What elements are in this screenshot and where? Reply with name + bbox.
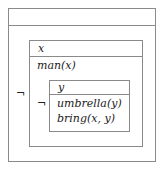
middle-drs-referent-x: x xyxy=(38,42,44,55)
middle-drs-condition-man: man(x) xyxy=(37,59,76,72)
middle-drs-divider xyxy=(30,56,142,57)
inner-drs-condition-bring: bring(x, y) xyxy=(57,112,115,125)
inner-drs-box: y umbrella(y) bring(x, y) xyxy=(49,80,130,132)
outer-drs-divider xyxy=(9,25,155,26)
inner-drs-divider xyxy=(50,94,129,95)
inner-drs-condition-umbrella: umbrella(y) xyxy=(57,97,122,110)
inner-drs-referent-y: y xyxy=(58,81,64,94)
inner-negation-symbol: ¬ xyxy=(37,97,46,110)
outer-negation-symbol: ¬ xyxy=(16,87,25,100)
